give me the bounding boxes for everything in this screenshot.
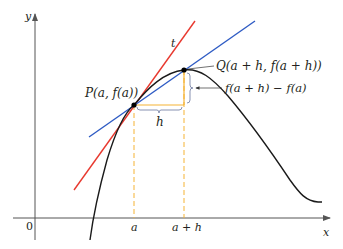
x-tick-a-plus-h: a + h <box>172 221 202 234</box>
point-p-label: P(a, f(a)) <box>84 86 138 100</box>
point-q-label: Q(a + h, f(a + h)) <box>216 59 322 73</box>
point-q <box>181 67 186 72</box>
rise-bracket <box>187 73 193 103</box>
q-leader-line <box>188 66 214 69</box>
run-label: h <box>156 115 164 129</box>
point-p <box>131 102 136 107</box>
run-bracket <box>137 107 182 113</box>
secant-tangent-diagram: y x 0 a a + h t P(a, f(a)) Q(a + h, f(a … <box>0 0 343 249</box>
y-axis-label: y <box>24 10 32 23</box>
x-axis-label: x <box>323 226 330 239</box>
rise-label: f(a + h) − f(a) <box>224 81 306 95</box>
x-tick-a: a <box>131 221 138 234</box>
tangent-label: t <box>171 37 176 50</box>
origin-label: 0 <box>26 220 33 233</box>
diagram-canvas: y x 0 a a + h t P(a, f(a)) Q(a + h, f(a … <box>0 0 343 249</box>
